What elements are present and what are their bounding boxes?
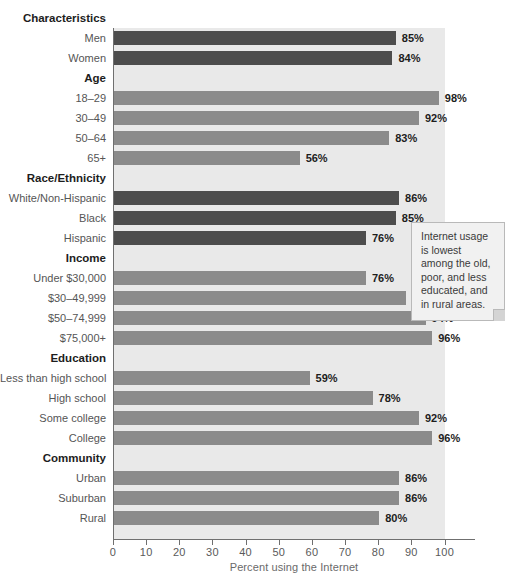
bar-row-label: High school — [0, 388, 106, 408]
bar-row: Men85% — [0, 28, 519, 48]
bar-row-label: 50–64 — [0, 128, 106, 148]
bar-row: Less than high school59% — [0, 368, 519, 388]
bar-row-label: Black — [0, 208, 106, 228]
x-tick-label: 50 — [264, 546, 294, 558]
bar-row-label: $75,000+ — [0, 328, 106, 348]
bar — [114, 91, 439, 105]
x-tick — [279, 540, 280, 545]
x-tick — [378, 540, 379, 545]
bar-row: Rural80% — [0, 508, 519, 528]
bar-row: Some college92% — [0, 408, 519, 428]
bar — [114, 131, 389, 145]
bar — [114, 271, 366, 285]
bar-row: 65+56% — [0, 148, 519, 168]
bar-row-label: White/Non-Hispanic — [0, 188, 106, 208]
bar — [114, 291, 406, 305]
bar-value-label: 56% — [306, 148, 328, 168]
group-header-label: Characteristics — [0, 8, 106, 28]
bar-row: White/Non-Hispanic86% — [0, 188, 519, 208]
bar-row-label: Some college — [0, 408, 106, 428]
x-tick — [445, 540, 446, 545]
bar-row: Women84% — [0, 48, 519, 68]
group-header-row: Characteristics — [0, 8, 519, 28]
bar-row: 30–4992% — [0, 108, 519, 128]
bar-row-label: Women — [0, 48, 106, 68]
group-header-row: Race/Ethnicity — [0, 168, 519, 188]
bar-value-label: 86% — [405, 488, 427, 508]
bar-value-label: 85% — [402, 28, 424, 48]
bar — [114, 431, 432, 445]
bar-row: 50–6483% — [0, 128, 519, 148]
x-axis-line — [113, 539, 475, 540]
x-tick-label: 100 — [430, 546, 460, 558]
bar — [114, 371, 310, 385]
bar-row: Suburban86% — [0, 488, 519, 508]
bar — [114, 191, 399, 205]
x-tick — [212, 540, 213, 545]
group-header-row: Community — [0, 448, 519, 468]
group-header-label: Income — [0, 248, 106, 268]
x-tick-label: 20 — [164, 546, 194, 558]
x-tick — [179, 540, 180, 545]
bar-row-label: Men — [0, 28, 106, 48]
x-tick — [312, 540, 313, 545]
bar-value-label: 83% — [395, 128, 417, 148]
x-tick — [146, 540, 147, 545]
bar-value-label: 86% — [405, 188, 427, 208]
bar-row-label: Less than high school — [0, 368, 106, 388]
bar — [114, 211, 396, 225]
bar — [114, 31, 396, 45]
bar-value-label: 80% — [385, 508, 407, 528]
bar — [114, 51, 392, 65]
x-tick-label: 70 — [330, 546, 360, 558]
bar-row-label: $30–49,999 — [0, 288, 106, 308]
x-tick-label: 90 — [396, 546, 426, 558]
internet-use-bar-chart: CharacteristicsMen85%Women84%Age18–2998%… — [0, 0, 519, 579]
x-tick — [411, 540, 412, 545]
bar-value-label: 92% — [425, 408, 447, 428]
group-header-label: Education — [0, 348, 106, 368]
bar — [114, 471, 399, 485]
x-axis-title: Percent using the Internet — [113, 561, 475, 573]
bar — [114, 491, 399, 505]
bar-value-label: 59% — [316, 368, 338, 388]
group-header-row: Age — [0, 68, 519, 88]
bar-value-label: 98% — [445, 88, 467, 108]
bar-value-label: 78% — [379, 388, 401, 408]
x-tick-label: 80 — [363, 546, 393, 558]
bar-row-label: Urban — [0, 468, 106, 488]
bar-row-label: 65+ — [0, 148, 106, 168]
bar-row-label: 18–29 — [0, 88, 106, 108]
group-header-label: Community — [0, 448, 106, 468]
x-tick-label: 40 — [231, 546, 261, 558]
x-tick-label: 60 — [297, 546, 327, 558]
callout-annotation: Internet usage is lowest among the old, … — [411, 222, 505, 321]
bar — [114, 511, 379, 525]
bar-row: $75,000+96% — [0, 328, 519, 348]
x-tick-label: 30 — [197, 546, 227, 558]
bar-row-label: Rural — [0, 508, 106, 528]
x-tick-label: 0 — [98, 546, 128, 558]
bar-row-label: College — [0, 428, 106, 448]
bar-row: 18–2998% — [0, 88, 519, 108]
bar-value-label: 76% — [372, 228, 394, 248]
group-header-label: Age — [0, 68, 106, 88]
bar — [114, 231, 366, 245]
bar — [114, 151, 300, 165]
bar-row: Urban86% — [0, 468, 519, 488]
bar-value-label: 92% — [425, 108, 447, 128]
x-tick — [345, 540, 346, 545]
bar-value-label: 84% — [398, 48, 420, 68]
group-header-row: Education — [0, 348, 519, 368]
x-tick — [246, 540, 247, 545]
bar — [114, 391, 373, 405]
callout-fold-corner — [493, 309, 505, 321]
bar — [114, 311, 426, 325]
bar-value-label: 96% — [438, 428, 460, 448]
bar-row-label: 30–49 — [0, 108, 106, 128]
bar — [114, 331, 432, 345]
bar-value-label: 86% — [405, 468, 427, 488]
x-tick-label: 10 — [131, 546, 161, 558]
bar-value-label: 96% — [438, 328, 460, 348]
bar-row-label: Suburban — [0, 488, 106, 508]
